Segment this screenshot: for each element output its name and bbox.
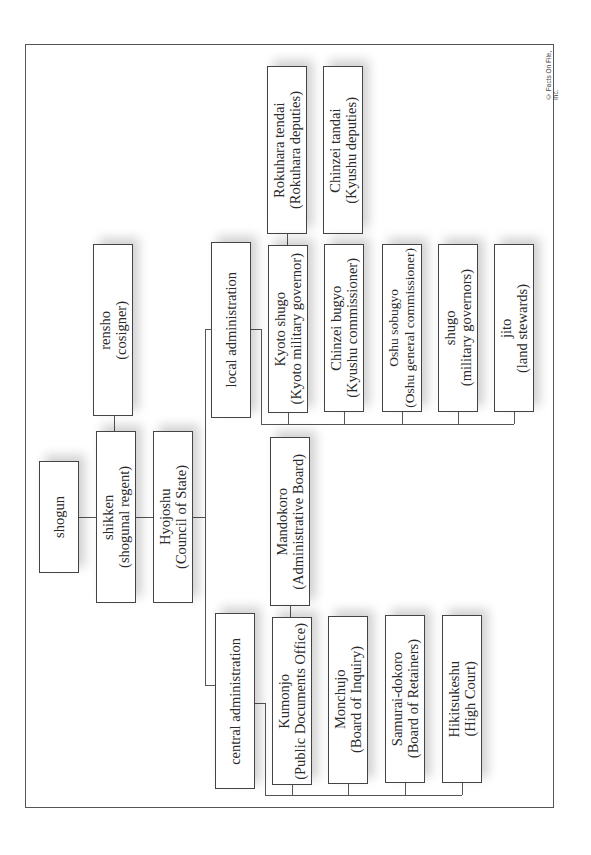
- connector: [114, 415, 115, 431]
- node-label: Hikitsukeshu: [446, 661, 462, 738]
- node-label: (shogunal regent): [116, 466, 132, 568]
- node-label: local administration: [223, 272, 239, 388]
- connector: [205, 329, 206, 685]
- connector: [265, 703, 266, 795]
- node-label: Hyojoshu: [157, 489, 173, 545]
- node-label: (Board of Retainers): [405, 639, 421, 758]
- connector: [344, 412, 345, 424]
- connector: [287, 233, 288, 245]
- connector: [514, 411, 515, 424]
- node-oshu-sobugyo: Oshu sobugyo(Oshu general commissioner): [382, 244, 422, 412]
- node-label: (Council of State): [173, 465, 189, 569]
- node-label: (Administrative Board): [290, 454, 306, 590]
- copyright-credit: © Facts On File, Inc.: [545, 50, 559, 100]
- node-label: Samurai-dokoro: [389, 652, 405, 746]
- node-shogun: shogun: [39, 461, 79, 573]
- node-label: (Rokuhara deputies): [287, 91, 303, 209]
- connector: [192, 517, 205, 518]
- node-mandokoro: Mandokoro(Administrative Board): [270, 437, 310, 606]
- node-samurai-dokoro: Samurai-dokoro(Board of Retainers): [385, 615, 425, 783]
- node-jito: jito(land stewards): [494, 244, 534, 412]
- connector: [251, 329, 261, 330]
- node-local-administration: local administration: [211, 242, 251, 418]
- node-shugo: shugo(military governors): [438, 244, 478, 412]
- connector: [290, 605, 291, 617]
- connector: [402, 412, 403, 424]
- node-rokuhara-tandai: Rokuhara tendai(Rokuhara deputies): [267, 66, 307, 234]
- connector: [288, 412, 289, 424]
- node-monchujo: Monchujo(Board of Inquiry): [328, 616, 368, 784]
- node-label: (Kyushu commissioner): [344, 258, 360, 398]
- connector: [348, 784, 349, 795]
- node-label: (cosigner): [113, 301, 129, 360]
- connector: [78, 517, 96, 518]
- node-label: shugo: [442, 311, 458, 346]
- node-label: (High Court): [462, 661, 478, 736]
- connector: [405, 783, 406, 795]
- node-label: (Public Documents Office): [292, 623, 308, 780]
- connector: [254, 703, 265, 704]
- node-label: Mandokoro: [274, 488, 290, 556]
- node-rensho: rensho(cosigner): [93, 244, 133, 416]
- node-label: (Kyushu deputies): [343, 97, 359, 204]
- connector: [135, 517, 153, 518]
- node-label: rensho: [97, 311, 113, 350]
- node-kumonjo: Kumonjo(Public Documents Office): [272, 617, 312, 785]
- node-chinzei-bugyo: Chinzei bugyo(Kyushu commissioner): [324, 244, 364, 412]
- node-label: (Board of Inquiry): [348, 646, 364, 753]
- node-label: central administration: [227, 638, 243, 765]
- node-hikitsukeshu: Hikitsukeshu(High Court): [442, 615, 482, 783]
- connector: [261, 424, 514, 425]
- node-label: Monchujo: [332, 670, 348, 730]
- connector: [265, 795, 462, 796]
- node-shikken: shikken(shogunal regent): [96, 431, 136, 603]
- node-hyojoshu: Hyojoshu(Council of State): [153, 431, 193, 603]
- node-label: Rokuhara tendai: [271, 102, 287, 197]
- connector: [462, 782, 463, 795]
- connector: [458, 411, 459, 424]
- node-label: (Kyoto military governor): [288, 253, 304, 404]
- node-label: Chinzei bugyo: [328, 286, 344, 371]
- node-label: Chinzei tandai: [327, 108, 343, 192]
- node-label: Oshu sobugyo: [386, 289, 402, 367]
- node-label: Kyoto shugo: [272, 292, 288, 367]
- node-kyoto-shugo: Kyoto shugo(Kyoto military governor): [268, 245, 308, 413]
- node-label: shikken: [100, 494, 116, 539]
- node-label: shogun: [51, 496, 67, 538]
- node-central-administration: central administration: [215, 613, 255, 789]
- node-label: Kumonjo: [276, 674, 292, 729]
- node-label: (Oshu general commissioner): [402, 248, 418, 408]
- node-chinzei-tandai: Chinzei tandai(Kyushu deputies): [323, 66, 363, 234]
- node-label: (land stewards): [514, 284, 530, 373]
- connector: [261, 329, 262, 424]
- connector: [292, 784, 293, 795]
- node-label: (military governors): [458, 269, 474, 386]
- node-label: jito: [498, 318, 514, 337]
